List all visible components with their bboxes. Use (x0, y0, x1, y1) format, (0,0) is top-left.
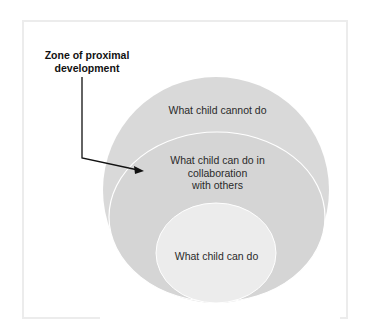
middle-label-line3: with others (150, 179, 285, 192)
inner-circle-label: What child can do (156, 250, 277, 263)
middle-circle-label: What child can do in collaboration with … (150, 154, 285, 192)
middle-label-line2: collaboration (150, 167, 285, 180)
outer-circle-label: What child cannot do (150, 104, 285, 117)
zpd-label-line2: development (32, 62, 142, 75)
middle-label-line1: What child can do in (150, 154, 285, 167)
zone-of-proximal-development-label: Zone of proximal development (32, 49, 142, 75)
zpd-label-line1: Zone of proximal (32, 49, 142, 62)
